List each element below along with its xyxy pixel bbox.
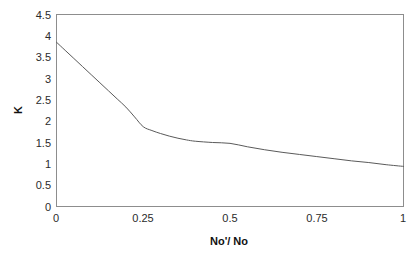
y-tick-label: 1 — [45, 158, 51, 170]
x-axis-title: No'/ No — [210, 235, 248, 247]
y-tick-label: 1.5 — [36, 137, 51, 149]
x-tick-label: 0.5 — [222, 212, 237, 224]
x-tick-label: 0.25 — [132, 212, 153, 224]
line-chart: 4.5 4 3.5 3 2.5 2 1.5 1 0.5 0 0 0.25 0.5… — [0, 0, 418, 262]
chart-background — [0, 0, 418, 262]
y-tick-label: 4.5 — [36, 9, 51, 21]
y-tick-label: 2 — [45, 115, 51, 127]
y-tick-label: 4 — [45, 30, 51, 42]
y-tick-label: 0.5 — [36, 179, 51, 191]
x-tick-label: 1 — [400, 212, 406, 224]
y-tick-label: 3 — [45, 73, 51, 85]
y-tick-label: 3.5 — [36, 51, 51, 63]
chart-figure: 4.5 4 3.5 3 2.5 2 1.5 1 0.5 0 0 0.25 0.5… — [0, 0, 418, 262]
x-tick-label: 0.75 — [306, 212, 327, 224]
y-tick-label: 2.5 — [36, 94, 51, 106]
x-tick-label: 0 — [53, 212, 59, 224]
y-axis-title: K — [12, 106, 24, 114]
y-tick-label: 0 — [45, 201, 51, 213]
